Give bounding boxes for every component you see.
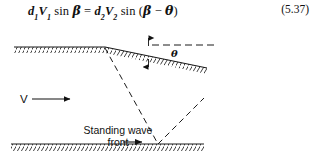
equation-d2-subscript: 2 — [101, 13, 105, 22]
equation-row: d1V1 sin β = d2V2 sin (β − θ) (5.37) — [0, 0, 327, 26]
equation-d2-symbol: d — [94, 4, 100, 18]
equation-beta-left: β — [72, 3, 80, 18]
equation-sin-right: sin — [121, 4, 136, 18]
equation-equals-sign: = — [84, 4, 91, 18]
dip-angle-label: θ — [171, 48, 178, 59]
equation-beta-right: β — [143, 3, 151, 18]
equation-sin-left: sin — [54, 4, 69, 18]
reflected-ray — [158, 98, 204, 144]
equation-minus-sign: − — [155, 4, 162, 18]
refraction-diagram: θ V Standing wave front — [0, 26, 327, 161]
equation-close-paren: ) — [174, 4, 178, 18]
equation-number: (5.37) — [281, 3, 309, 15]
velocity-label: V — [20, 93, 28, 105]
equation-V1-subscript: 1 — [47, 13, 51, 22]
equation-expression: d1V1 sin β = d2V2 sin (β − θ) — [28, 3, 178, 21]
standing-wave-label-line1: Standing wave — [84, 124, 153, 136]
equation-theta-symbol: θ — [165, 3, 173, 18]
equation-V1-symbol: V — [38, 4, 46, 18]
figure-container: d1V1 sin β = d2V2 sin (β − θ) (5.37) — [0, 0, 327, 161]
upper-interface-hatching — [14, 47, 207, 74]
equation-V2-subscript: 2 — [113, 13, 117, 22]
equation-d1-subscript: 1 — [34, 13, 38, 22]
lower-interface-hatching — [11, 144, 204, 151]
